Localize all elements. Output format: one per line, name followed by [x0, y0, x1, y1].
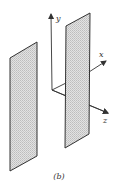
x-axis-back — [52, 83, 66, 90]
z-axis-back — [52, 90, 66, 96]
y-axis — [51, 14, 52, 90]
z-axis-front — [89, 105, 108, 113]
right-sheet — [65, 13, 90, 148]
y-axis-label: y — [55, 14, 61, 23]
z-axis-label: z — [102, 116, 108, 125]
figure-caption: (b) — [53, 172, 64, 181]
x-axis — [89, 61, 106, 72]
x-axis-label: x — [99, 50, 104, 59]
figure-canvas: y x z (b) — [0, 0, 118, 187]
left-sheet — [10, 42, 37, 171]
